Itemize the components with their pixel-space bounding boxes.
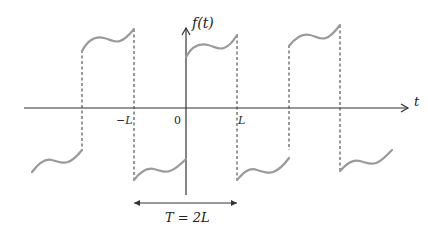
function-curve: [32, 25, 392, 180]
y-axis-label: f(t): [191, 15, 214, 31]
tick-label-pos-l: L: [237, 114, 245, 127]
discontinuity-lines: [82, 25, 340, 180]
period-label: T = 2L: [165, 210, 210, 225]
tick-label-neg-l: −L: [116, 114, 133, 127]
periodic-function-diagram: f(t) t −L 0 L T = 2L: [0, 0, 428, 230]
x-axis-label: t: [414, 94, 420, 109]
tick-label-origin: 0: [174, 114, 181, 127]
